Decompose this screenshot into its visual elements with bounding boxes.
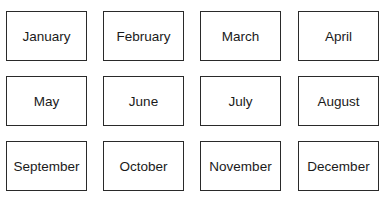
month-label: March xyxy=(222,29,260,44)
month-box-april: April xyxy=(298,11,379,61)
month-box-june: June xyxy=(103,76,184,126)
month-label: October xyxy=(119,159,167,174)
month-box-january: January xyxy=(6,11,87,61)
month-label: April xyxy=(325,29,352,44)
month-box-december: December xyxy=(298,141,379,191)
month-label: July xyxy=(228,94,252,109)
month-box-february: February xyxy=(103,11,184,61)
month-label: February xyxy=(116,29,170,44)
month-label: November xyxy=(209,159,271,174)
month-label: September xyxy=(13,159,79,174)
month-label: June xyxy=(129,94,158,109)
month-box-july: July xyxy=(200,76,281,126)
month-box-may: May xyxy=(6,76,87,126)
month-box-october: October xyxy=(103,141,184,191)
month-box-september: September xyxy=(6,141,87,191)
month-box-november: November xyxy=(200,141,281,191)
month-label: May xyxy=(34,94,60,109)
month-box-august: August xyxy=(298,76,379,126)
month-label: August xyxy=(317,94,359,109)
month-label: December xyxy=(307,159,369,174)
months-grid: January February March April May June Ju… xyxy=(0,0,385,203)
month-label: January xyxy=(22,29,70,44)
month-box-march: March xyxy=(200,11,281,61)
